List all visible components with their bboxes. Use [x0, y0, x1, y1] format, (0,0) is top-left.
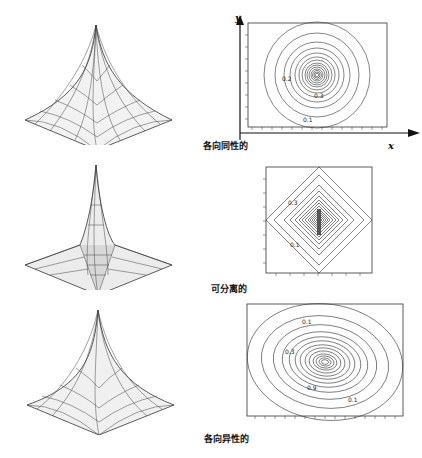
surface-mesh-icon [22, 310, 182, 435]
contour-plot-separable: 0.3 0.1 [260, 165, 380, 285]
contour-label: 0.3 [314, 92, 324, 99]
surface-plot-isotropic [20, 25, 180, 145]
contour-label: 0.1 [302, 318, 312, 325]
contour-label: 0.9 [307, 384, 317, 391]
surface-plot-separable [20, 165, 180, 290]
contour-label: 0.3 [285, 348, 295, 355]
x-axis-label: x [388, 140, 394, 151]
contour-label: 0.1 [348, 396, 358, 403]
surface-mesh-icon [20, 25, 180, 145]
y-axis-label: y [235, 12, 241, 23]
contour-plot-anisotropic: 0.1 0.3 0.9 0.1 [245, 302, 410, 422]
surface-mesh-icon [20, 165, 180, 290]
contour-label: 0.2 [282, 75, 292, 82]
caption-separable: 可分离的 [211, 282, 247, 295]
caption-isotropic: 各向同性的 [203, 139, 248, 152]
caption-anisotropic: 各向异性的 [204, 432, 249, 445]
x-axis-arrow-icon [408, 129, 420, 137]
contour-label: 0.1 [290, 241, 300, 248]
surface-plot-anisotropic [22, 310, 182, 435]
contour-label: 0.3 [288, 199, 298, 206]
contour-plot-isotropic: 0.2 0.1 0.3 [230, 15, 422, 150]
contour-label: 0.1 [303, 116, 313, 123]
